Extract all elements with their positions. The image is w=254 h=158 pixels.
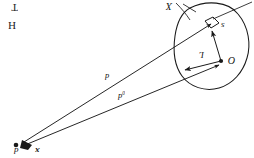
region-outline [174, 3, 249, 89]
label-origin-O: O [228, 55, 235, 65]
label-vector-L: L [199, 50, 204, 59]
ray-d0-line [25, 65, 219, 145]
vector-s-line [212, 31, 221, 61]
label-ray-d0-subscript: 0 [122, 90, 125, 96]
figure-canvas [0, 0, 254, 158]
label-ray-d0: 0d [118, 90, 125, 101]
ray-corner-line [213, 2, 252, 19]
label-ray-d: d [105, 72, 109, 81]
label-ray-d0-base: d [118, 92, 122, 102]
region-label-leader [176, 3, 190, 20]
ray-d-line [24, 24, 211, 142]
label-vector-s: s [221, 21, 225, 30]
vector-L-line [185, 61, 221, 70]
region-label-tick [183, 4, 196, 12]
origin-point-O [219, 59, 223, 63]
figure-root: T H [0, 0, 254, 158]
label-vertex-x: x [35, 146, 40, 155]
label-vertex-d: d [14, 146, 19, 155]
label-region-X: X [166, 1, 172, 11]
